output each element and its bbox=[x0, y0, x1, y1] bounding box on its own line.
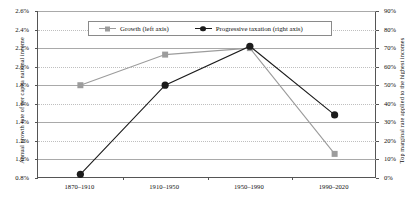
data-series-layer bbox=[38, 11, 377, 178]
data-point-marker bbox=[246, 43, 253, 50]
legend-label-growth: Growth (left axis) bbox=[120, 25, 169, 32]
legend-label-taxation: Progressive taxation (right axis) bbox=[216, 25, 303, 32]
series-line-square bbox=[80, 48, 334, 154]
x-axis-tick-label: 1950–1990 bbox=[209, 183, 289, 190]
legend-line-taxation-icon bbox=[195, 28, 212, 29]
x-axis-tick-label: 1910–1950 bbox=[124, 183, 204, 190]
legend-item-taxation: Progressive taxation (right axis) bbox=[195, 25, 303, 32]
data-point-marker bbox=[77, 82, 83, 88]
data-point-marker bbox=[162, 82, 169, 89]
data-point-marker bbox=[331, 111, 338, 118]
right-tickmark bbox=[376, 178, 379, 179]
x-axis-tick-label: 1990–2020 bbox=[294, 183, 374, 190]
series-line-circle bbox=[80, 46, 334, 174]
legend-line-growth-icon bbox=[99, 28, 116, 29]
data-point-marker bbox=[332, 151, 338, 157]
x-axis-tick-label: 1870–1910 bbox=[39, 183, 119, 190]
data-point-marker bbox=[162, 52, 168, 58]
data-point-marker bbox=[77, 171, 84, 178]
legend-circle-marker-icon bbox=[200, 26, 206, 32]
plot-area bbox=[37, 11, 376, 178]
left-tickmark bbox=[35, 178, 38, 179]
legend-square-marker-icon bbox=[105, 26, 110, 31]
chart-legend: Growth (left axis) Progressive taxation … bbox=[88, 21, 332, 36]
legend-item-growth: Growth (left axis) bbox=[99, 25, 169, 32]
